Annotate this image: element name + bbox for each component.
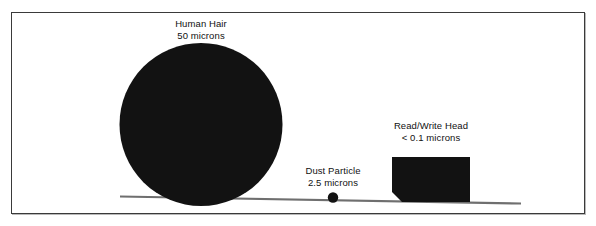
read-write-head-label: Read/Write Head < 0.1 microns <box>371 120 491 143</box>
illustration-canvas: Human Hair 50 microns Dust Particle 2.5 … <box>0 0 596 226</box>
read-write-head-label-size: < 0.1 microns <box>371 132 491 144</box>
human-hair-circle <box>120 43 283 206</box>
shapes-layer <box>0 0 596 226</box>
dust-particle-label-name: Dust Particle <box>283 165 383 177</box>
dust-particle-label: Dust Particle 2.5 microns <box>283 165 383 188</box>
dust-particle-dot <box>328 192 338 202</box>
read-write-head-label-name: Read/Write Head <box>371 120 491 132</box>
read-write-head-block <box>392 157 470 202</box>
dust-particle-label-size: 2.5 microns <box>283 177 383 189</box>
human-hair-label-name: Human Hair <box>141 18 261 30</box>
human-hair-label: Human Hair 50 microns <box>141 18 261 41</box>
human-hair-label-size: 50 microns <box>141 30 261 42</box>
